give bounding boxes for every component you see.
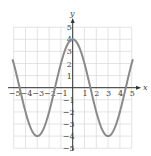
x-tick-label: 4	[118, 89, 123, 98]
x-tick-label: 5	[130, 89, 135, 98]
x-tick-label: 1	[83, 89, 88, 98]
y-tick-label: −3	[63, 120, 75, 129]
y-tick-label: −5	[63, 144, 75, 153]
x-tick-label: 3	[106, 89, 111, 98]
y-tick-label: 5	[67, 23, 72, 32]
y-tick-label: −4	[63, 132, 75, 141]
y-tick-label: −1	[63, 96, 75, 105]
y-tick-label: 2	[67, 60, 72, 69]
cosine-graph: x y −5−4−3−2−11234554321−1−2−3−4−5	[0, 0, 151, 156]
x-tick-label: 2	[94, 89, 99, 98]
x-axis-label: x	[143, 83, 148, 92]
x-axis-arrow-icon	[136, 86, 141, 90]
y-axis-label: y	[69, 9, 75, 18]
x-tick-label: −5	[9, 89, 21, 98]
y-tick-label: 1	[67, 72, 72, 81]
y-tick-label: −2	[63, 108, 75, 117]
x-tick-label: −3	[32, 89, 44, 98]
y-tick-label: 3	[67, 47, 72, 56]
